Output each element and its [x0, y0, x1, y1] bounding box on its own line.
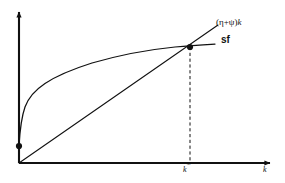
break-even-line-label-var: k [237, 17, 241, 27]
k-star-superscript: * [187, 160, 192, 170]
break-even-line-label-text: (η+ψ) [216, 17, 237, 27]
steady-state-dot [187, 44, 193, 50]
production-curve-label: sf [221, 35, 230, 45]
y-intercept-dot [16, 143, 22, 149]
break-even-line-label: (η+ψ)k [216, 18, 241, 27]
solow-diagram-figure: (η+ψ)k sf k* k [0, 0, 285, 183]
k-star-tick-label: k* [183, 165, 191, 174]
x-axis-label: k [263, 166, 267, 174]
plot-canvas [0, 0, 285, 183]
